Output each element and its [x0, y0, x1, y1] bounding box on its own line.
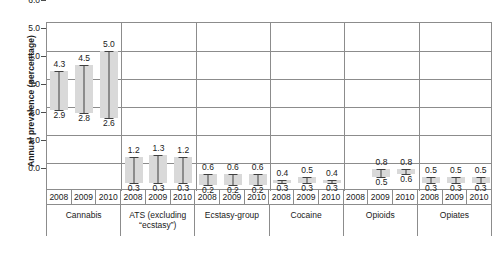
error-bar-cap-upper — [104, 51, 113, 52]
y-axis-tick-label: 3.0 — [28, 79, 40, 89]
x-axis-year-label: 2010 — [392, 190, 417, 205]
bar-cell: 0.80.5 — [369, 23, 394, 189]
bar-cell: 0.60.2 — [245, 23, 270, 189]
bar-cell: 0.80.6 — [394, 23, 419, 189]
value-label-upper: 1.2 — [128, 146, 140, 155]
y-axis-tick-label: 5.0 — [28, 23, 40, 33]
error-bar-cap-upper — [228, 174, 237, 175]
x-axis-group-label: Cocaine — [269, 205, 343, 236]
bar-cell: 0.50.3 — [419, 23, 444, 189]
error-bar-cap-upper — [154, 155, 163, 156]
error-bar-cap-upper — [55, 71, 64, 72]
value-label-upper: 1.2 — [177, 146, 189, 155]
x-axis-year-label: 2010 — [170, 190, 195, 205]
x-axis-year-label: 2009 — [293, 190, 318, 205]
x-axis-year-label: 2008 — [417, 190, 442, 205]
error-bar-line — [84, 65, 85, 113]
value-label-lower: 2.8 — [78, 114, 90, 123]
x-axis-group-label: Cannabis — [46, 205, 120, 236]
x-axis-year-label: 2008 — [46, 190, 71, 205]
error-bar-cap-upper — [129, 157, 138, 158]
value-label-upper: 0.5 — [301, 166, 313, 175]
bar-cell: 1.20.3 — [171, 23, 196, 189]
error-bar-line — [133, 157, 134, 182]
error-bar-cap-upper — [451, 177, 460, 178]
bar-cell: 5.02.6 — [97, 23, 122, 189]
value-label-upper: 1.3 — [153, 144, 165, 153]
value-label-upper: 0.4 — [326, 169, 338, 178]
x-axis-year-label: 2008 — [268, 190, 293, 205]
x-axis-year-label: 2009 — [145, 190, 170, 205]
x-axis-group-label: Ecstasy-group — [194, 205, 268, 236]
y-axis-tick-mark — [41, 0, 46, 1]
bar-cell: 4.52.8 — [72, 23, 97, 189]
value-label-lower: 0.5 — [376, 178, 388, 187]
bar-cell: 1.30.3 — [146, 23, 171, 189]
value-label-upper: 0.5 — [450, 166, 462, 175]
x-axis-year-label: 2010 — [466, 190, 492, 205]
error-bar-cap-upper — [204, 174, 213, 175]
chart-container: Annual prevalence (percentage) 0.01.02.0… — [0, 0, 503, 255]
x-axis-year-label: 2009 — [367, 190, 392, 205]
value-label-upper: 0.5 — [475, 166, 487, 175]
bar-cell: 4.32.9 — [47, 23, 72, 189]
value-label-upper: 0.5 — [425, 166, 437, 175]
bar-cell: 0.60.2 — [220, 23, 245, 189]
y-axis-tick-label: 6.0 — [28, 0, 40, 5]
error-bar-line — [183, 157, 184, 182]
x-axis-year-label: 2008 — [343, 190, 368, 205]
x-axis-year-label: 2008 — [120, 190, 145, 205]
error-bar-cap-upper — [80, 65, 89, 66]
error-bar-cap-upper — [427, 177, 436, 178]
x-axis-year-label: 2008 — [194, 190, 219, 205]
bar-cell: 0.50.3 — [443, 23, 468, 189]
value-label-lower: 2.9 — [53, 111, 65, 120]
x-axis-group-label: ATS (excluding“ecstasy”) — [120, 205, 194, 236]
value-label-lower: 2.6 — [103, 119, 115, 128]
value-label-upper: 0.8 — [376, 158, 388, 167]
value-label-upper: 0.6 — [252, 163, 264, 172]
y-axis-tick-label: 0.0 — [28, 163, 40, 173]
value-label-upper: 4.3 — [53, 60, 65, 69]
x-axis-group-row: CannabisATS (excluding“ecstasy”)Ecstasy-… — [46, 205, 492, 236]
x-axis-table: 2008200920102008200920102008200920102008… — [46, 190, 492, 236]
x-axis-year-label: 2009 — [442, 190, 467, 205]
bar-cell — [344, 23, 369, 189]
error-bar-cap-upper — [476, 177, 485, 178]
y-axis-tick-label: 4.0 — [28, 51, 40, 61]
bar-cell: 0.50.3 — [295, 23, 320, 189]
value-label-upper: 4.5 — [78, 54, 90, 63]
error-bar-line — [158, 155, 159, 183]
error-bar-line — [257, 174, 258, 185]
error-bar-cap-upper — [377, 169, 386, 170]
bar-cell: 0.40.3 — [270, 23, 295, 189]
error-bar-cap-upper — [278, 180, 287, 181]
x-axis-year-label: 2009 — [219, 190, 244, 205]
error-bar-cap-upper — [303, 177, 312, 178]
error-bar-cap-upper — [179, 157, 188, 158]
value-label-upper: 0.6 — [227, 163, 239, 172]
error-bar-line — [59, 71, 60, 110]
x-axis-year-row: 2008200920102008200920102008200920102008… — [46, 190, 492, 205]
plot-area: 4.32.94.52.85.02.61.20.31.30.31.20.30.60… — [46, 22, 492, 190]
bar-cell: 0.40.3 — [320, 23, 345, 189]
x-axis-year-label: 2009 — [71, 190, 96, 205]
x-axis-year-label: 2010 — [244, 190, 269, 205]
x-axis-group-label: Opioids — [343, 205, 417, 236]
error-bar-line — [208, 174, 209, 185]
x-axis-group-label: Opiates — [417, 205, 492, 236]
value-label-lower: 0.6 — [400, 175, 412, 184]
y-axis-tick-label: 2.0 — [28, 107, 40, 117]
x-axis-year-label: 2010 — [318, 190, 343, 205]
error-bar-cap-upper — [253, 174, 262, 175]
value-label-upper: 5.0 — [103, 40, 115, 49]
value-label-upper: 0.6 — [202, 163, 214, 172]
bar-cell: 0.50.3 — [468, 23, 493, 189]
bar-cell: 0.60.2 — [196, 23, 221, 189]
error-bar-cap-upper — [402, 169, 411, 170]
value-label-upper: 0.8 — [400, 158, 412, 167]
error-bar-line — [232, 174, 233, 185]
y-axis-ticks: 0.01.02.03.04.05.06.0 — [0, 0, 46, 168]
error-bar-line — [108, 51, 109, 118]
bar-cell: 1.20.3 — [121, 23, 146, 189]
